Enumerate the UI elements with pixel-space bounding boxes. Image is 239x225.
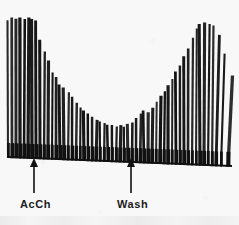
spike-base <box>175 150 179 164</box>
acch-event-label: AcCh <box>20 198 51 210</box>
spike-base <box>79 146 82 160</box>
contraction-spike <box>212 26 214 167</box>
spike-base <box>111 147 114 161</box>
spike-base <box>127 148 131 162</box>
spike-base <box>82 146 86 160</box>
spike-base <box>220 152 223 166</box>
spike-base <box>115 147 118 161</box>
contraction-spike <box>196 29 197 166</box>
spike-base <box>151 149 155 163</box>
spike-base <box>91 146 94 160</box>
spike-base <box>23 144 26 158</box>
spike-base <box>99 147 102 161</box>
kymograph-figure: AcCh Wash <box>0 0 239 225</box>
spike-base <box>226 152 230 166</box>
contraction-spike <box>24 19 25 159</box>
spike-base <box>71 146 74 160</box>
spike-base <box>59 145 63 159</box>
spike-base <box>163 149 166 163</box>
spike-base <box>171 150 174 164</box>
spike-base <box>26 144 30 158</box>
spike-base <box>35 144 39 158</box>
contraction-spike <box>192 38 193 166</box>
spike-base <box>103 147 106 161</box>
spike-base <box>95 147 99 161</box>
spike-base <box>118 148 122 162</box>
wash-arrow <box>127 158 135 193</box>
spike-base <box>39 144 43 158</box>
spike-base <box>199 151 203 165</box>
spike-base <box>166 149 170 163</box>
contraction-spike <box>199 24 200 166</box>
spike-base <box>62 145 66 159</box>
spike-base <box>135 148 138 162</box>
spike-base <box>191 150 194 164</box>
spike-base <box>215 151 219 165</box>
contraction-spike <box>32 19 33 159</box>
spike-base <box>183 150 187 164</box>
spike-base <box>195 151 198 165</box>
spike-base <box>123 148 126 162</box>
contraction-spike <box>216 35 219 167</box>
spike-base <box>75 146 78 160</box>
spike-group <box>7 17 233 166</box>
spike-base <box>87 146 90 160</box>
spike-base <box>11 143 14 157</box>
spike-base <box>158 149 162 163</box>
spike-base <box>7 143 10 157</box>
contraction-spike <box>44 52 45 160</box>
contraction-spike <box>221 54 225 167</box>
arrow-head-icon <box>30 158 38 167</box>
spike-base <box>107 147 110 161</box>
spike-base <box>187 150 190 164</box>
spike-base <box>143 149 146 163</box>
spike-base <box>30 144 34 158</box>
spike-base <box>139 148 142 162</box>
contraction-spike <box>28 17 29 158</box>
spike-base <box>211 151 214 165</box>
contraction-spike <box>8 20 9 158</box>
spike-base <box>51 145 54 159</box>
spike-base <box>202 151 206 165</box>
contraction-trace <box>0 0 239 225</box>
spike-base <box>15 143 19 157</box>
event-arrow-group <box>30 158 135 193</box>
spike-base <box>43 144 46 158</box>
spike-base <box>46 145 50 159</box>
wash-event-label: Wash <box>117 198 148 210</box>
contraction-spike <box>208 24 210 166</box>
spike-base <box>155 149 158 163</box>
spike-base <box>179 150 182 164</box>
spike-base <box>207 151 210 165</box>
contraction-spike <box>204 22 205 166</box>
acch-arrow <box>30 158 38 193</box>
spike-base <box>18 144 22 158</box>
spike-base <box>55 145 58 159</box>
spike-base <box>67 145 70 159</box>
spike-base <box>147 149 151 163</box>
